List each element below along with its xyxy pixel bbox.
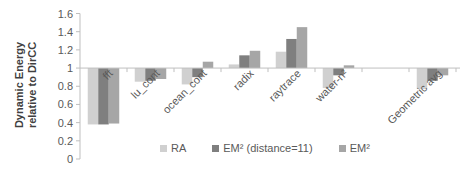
bar: [276, 52, 287, 68]
bar: [229, 64, 240, 68]
x-category-label: Geometric avg: [385, 67, 444, 126]
legend-label-em2-distance-11: EM² (distance=11): [223, 142, 312, 154]
legend-item-em2: EM²: [339, 142, 370, 154]
legend-label-ra: RA: [171, 142, 186, 154]
x-category-label: raytrace: [266, 67, 303, 104]
y-axis-title-line-2: relative to DirCC: [26, 42, 39, 128]
bar: [203, 62, 214, 68]
y-tick-label: 1.4: [58, 26, 73, 38]
x-category-label: radix: [231, 67, 257, 93]
y-axis-title: Dynamic Energy relative to DirCC: [6, 30, 46, 140]
y-tick-label: 0.8: [58, 80, 73, 92]
y-tick-label: 1.2: [58, 44, 73, 56]
legend-swatch-em2-distance-11: [212, 145, 219, 152]
legend-item-em2-distance-11: EM² (distance=11): [212, 142, 312, 154]
y-tick-label: 0.2: [58, 135, 73, 147]
legend-item-ra: RA: [160, 142, 186, 154]
bar: [250, 51, 261, 68]
y-tick-label: 1.6: [58, 8, 73, 20]
y-tick-label: 1: [67, 62, 73, 74]
legend-swatch-em2: [339, 145, 346, 152]
bar: [88, 68, 99, 124]
legend-swatch-ra: [160, 145, 167, 152]
y-tick-label: 0.6: [58, 98, 73, 110]
legend-label-em2: EM²: [350, 142, 370, 154]
bar: [286, 39, 297, 68]
y-axis-title-line-1: Dynamic Energy: [13, 42, 26, 128]
legend: RA EM² (distance=11) EM²: [160, 142, 396, 154]
bar: [297, 27, 308, 68]
y-tick-label: 0.4: [58, 117, 73, 129]
bar: [239, 55, 250, 68]
bar-chart: 00.20.40.60.811.21.41.6fftlu_contocean_c…: [0, 0, 476, 175]
y-tick-label: 0: [67, 153, 73, 165]
